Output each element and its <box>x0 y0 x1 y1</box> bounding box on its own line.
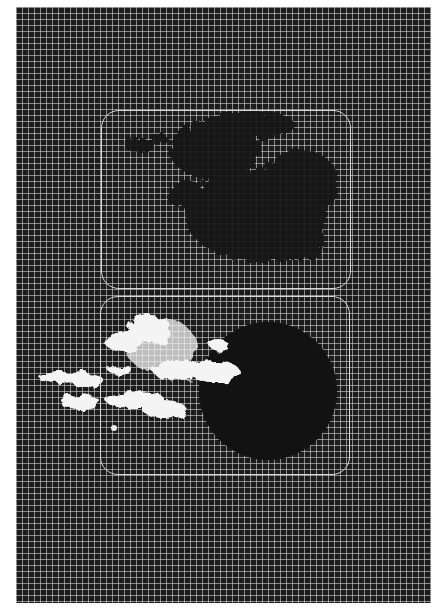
grid-image-frame <box>16 7 431 603</box>
top-panel-outline <box>101 110 351 289</box>
bottom-panel-outline <box>100 296 350 475</box>
